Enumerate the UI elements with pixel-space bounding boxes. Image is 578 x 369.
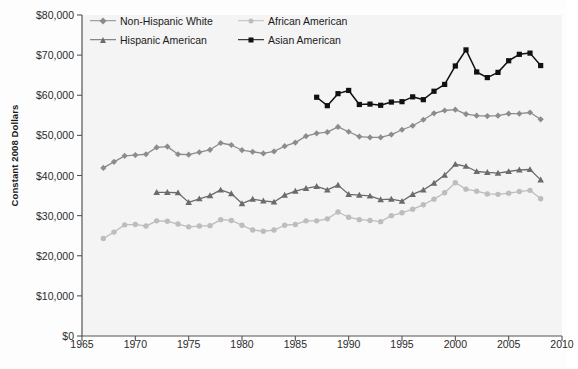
data-point bbox=[463, 186, 468, 191]
figure-caption bbox=[0, 356, 567, 369]
data-point bbox=[314, 218, 319, 223]
data-point bbox=[229, 218, 234, 223]
data-point bbox=[325, 216, 330, 221]
data-point bbox=[506, 58, 511, 63]
data-point bbox=[335, 209, 340, 214]
data-point bbox=[357, 102, 362, 107]
data-point bbox=[399, 210, 404, 215]
data-point bbox=[346, 88, 351, 93]
data-point bbox=[282, 223, 287, 228]
data-point bbox=[378, 219, 383, 224]
x-tick-label: 2005 bbox=[479, 338, 539, 350]
x-tick-label: 1985 bbox=[265, 338, 325, 350]
legend-marker-icon bbox=[90, 15, 116, 27]
data-point bbox=[143, 223, 148, 228]
data-point bbox=[495, 70, 500, 75]
data-point bbox=[197, 223, 202, 228]
data-point bbox=[357, 217, 362, 222]
data-point bbox=[453, 180, 458, 185]
data-point bbox=[325, 103, 330, 108]
data-point bbox=[410, 94, 415, 99]
data-point bbox=[261, 229, 266, 234]
chart-legend: Non-Hispanic WhiteAfrican AmericanHispan… bbox=[90, 12, 390, 50]
data-point bbox=[517, 189, 522, 194]
x-tick-label: 1995 bbox=[372, 338, 432, 350]
data-point bbox=[101, 236, 106, 241]
data-point bbox=[271, 227, 276, 232]
data-point bbox=[389, 213, 394, 218]
data-point bbox=[133, 222, 138, 227]
data-point bbox=[250, 227, 255, 232]
data-point bbox=[410, 207, 415, 212]
data-point bbox=[165, 219, 170, 224]
data-point bbox=[431, 89, 436, 94]
data-point bbox=[207, 223, 212, 228]
data-point bbox=[421, 202, 426, 207]
data-point bbox=[314, 95, 319, 100]
data-point bbox=[346, 215, 351, 220]
legend-item[interactable]: African American bbox=[238, 12, 347, 29]
legend-marker-icon bbox=[238, 34, 264, 46]
legend-label: Non-Hispanic White bbox=[120, 15, 213, 27]
data-point bbox=[463, 47, 468, 52]
legend-label: African American bbox=[268, 15, 347, 27]
data-point bbox=[474, 69, 479, 74]
data-point bbox=[335, 91, 340, 96]
data-point bbox=[218, 217, 223, 222]
legend-marker-icon bbox=[90, 34, 116, 46]
legend-item[interactable]: Hispanic American bbox=[90, 31, 207, 48]
x-tick-label: 1990 bbox=[319, 338, 379, 350]
x-tick-label: 1970 bbox=[105, 338, 165, 350]
data-point bbox=[303, 218, 308, 223]
legend-label: Asian American bbox=[268, 34, 341, 46]
x-tick-label: 1980 bbox=[212, 338, 272, 350]
data-point bbox=[442, 82, 447, 87]
data-point bbox=[293, 222, 298, 227]
legend-item[interactable]: Asian American bbox=[238, 31, 341, 48]
plot-background bbox=[82, 15, 562, 336]
data-point bbox=[186, 224, 191, 229]
data-point bbox=[175, 221, 180, 226]
data-point bbox=[111, 229, 116, 234]
x-tick-label: 2000 bbox=[425, 338, 485, 350]
data-point bbox=[389, 99, 394, 104]
data-point bbox=[517, 52, 522, 57]
data-point bbox=[239, 223, 244, 228]
data-point bbox=[442, 190, 447, 195]
data-point bbox=[399, 99, 404, 104]
legend-item[interactable]: Non-Hispanic White bbox=[90, 12, 213, 29]
data-point bbox=[431, 196, 436, 201]
data-point bbox=[527, 51, 532, 56]
data-point bbox=[421, 97, 426, 102]
data-point bbox=[122, 222, 127, 227]
x-tick-label: 1965 bbox=[52, 338, 112, 350]
data-point bbox=[378, 103, 383, 108]
legend-marker-icon bbox=[238, 15, 264, 27]
data-point bbox=[154, 218, 159, 223]
x-tick-label: 1975 bbox=[159, 338, 219, 350]
data-point bbox=[538, 63, 543, 68]
data-point bbox=[538, 196, 543, 201]
data-point bbox=[495, 192, 500, 197]
data-point bbox=[527, 188, 532, 193]
data-point bbox=[485, 191, 490, 196]
data-point bbox=[506, 190, 511, 195]
data-point bbox=[474, 188, 479, 193]
data-point bbox=[453, 63, 458, 68]
x-tick-label: 2010 bbox=[532, 338, 578, 350]
data-point bbox=[367, 218, 372, 223]
legend-label: Hispanic American bbox=[120, 34, 207, 46]
data-point bbox=[485, 75, 490, 80]
data-point bbox=[367, 101, 372, 106]
